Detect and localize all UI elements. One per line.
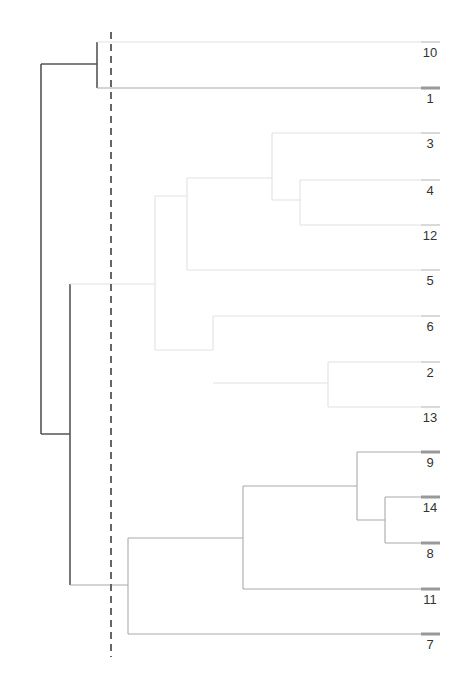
leaf-label-3: 3 xyxy=(415,136,445,151)
leaf-label-7: 7 xyxy=(415,637,445,652)
link-faint-8 xyxy=(213,316,421,407)
leaf-label-11: 11 xyxy=(415,592,445,607)
dendrogram-links xyxy=(41,42,421,634)
leaf-label-9: 9 xyxy=(415,455,445,470)
link-medium-10 xyxy=(243,486,421,589)
leaf-label-10: 10 xyxy=(415,45,445,60)
leaf-label-2: 2 xyxy=(415,365,445,380)
link-dark-0 xyxy=(41,64,97,434)
link-faint-5 xyxy=(70,196,213,350)
leaf-label-5: 5 xyxy=(415,273,445,288)
leaf-label-13: 13 xyxy=(415,410,445,425)
dendrogram xyxy=(0,0,459,689)
link-faint-6 xyxy=(187,178,421,270)
leaf-label-6: 6 xyxy=(415,319,445,334)
leaf-label-1: 1 xyxy=(415,91,445,106)
leaf-label-4: 4 xyxy=(415,183,445,198)
leaf-label-12: 12 xyxy=(415,228,445,243)
link-medium-11 xyxy=(357,452,421,543)
leaf-label-8: 8 xyxy=(415,546,445,561)
link-faint-7 xyxy=(272,133,421,225)
leaf-label-14: 14 xyxy=(415,500,445,515)
link-medium-9 xyxy=(70,538,421,634)
